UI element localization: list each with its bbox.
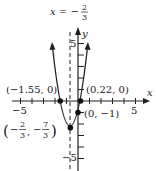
x-tick-label-neg5: −5 xyxy=(12,105,27,116)
curve-arrow-right-icon xyxy=(85,42,91,50)
y-axis-label: y xyxy=(81,28,88,39)
svg-text:7: 7 xyxy=(43,120,48,129)
label-vertex: ( − 2 3 , − 7 3 ) xyxy=(3,120,57,140)
y-tick-label-pos5: 5 xyxy=(70,38,76,49)
svg-text:−: − xyxy=(10,124,18,135)
point-x-intercept-left xyxy=(57,98,63,104)
label-x-intercept-left: (−1.55, 0) xyxy=(6,84,57,95)
point-y-intercept xyxy=(75,110,81,116)
svg-text:(: ( xyxy=(3,122,9,140)
label-y-intercept: (0, −1) xyxy=(84,108,119,119)
curve-arrow-left-icon xyxy=(50,42,56,50)
symmetry-den: 3 xyxy=(82,13,87,22)
x-axis-label: x xyxy=(147,87,153,98)
point-x-intercept-right xyxy=(78,98,84,104)
parabola-chart: x = − 2 3 x y −5 5 5 −5 (−1.55, 0) (0.22… xyxy=(0,0,156,171)
parabola-curve xyxy=(53,47,88,126)
symmetry-num: 2 xyxy=(82,3,87,12)
svg-text:3: 3 xyxy=(43,131,48,140)
svg-text:2: 2 xyxy=(20,120,25,129)
label-x-intercept-right: (0.22, 0) xyxy=(86,84,129,95)
y-tick-label-neg5: −5 xyxy=(62,152,77,163)
point-vertex xyxy=(68,125,74,131)
svg-text:−: − xyxy=(33,124,41,135)
svg-text:): ) xyxy=(51,122,57,140)
y-axis-arrow-icon xyxy=(75,27,81,35)
x-axis-arrow-icon xyxy=(143,98,150,104)
symmetry-label: x = − xyxy=(50,6,79,17)
x-tick-label-pos5: 5 xyxy=(131,105,137,116)
svg-text:,: , xyxy=(27,126,30,137)
svg-text:3: 3 xyxy=(20,131,25,140)
